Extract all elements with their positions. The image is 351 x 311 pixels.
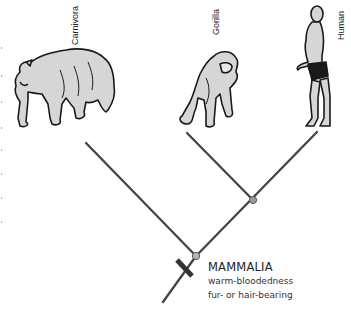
clade-name: MAMMALIA xyxy=(208,260,293,274)
clade-annotation: MAMMALIA warm-bloodedness fur- or hair-b… xyxy=(208,260,293,302)
branch-human xyxy=(196,132,317,256)
taxon-label-human: Human xyxy=(336,11,346,40)
clade-trait: warm-bloodedness xyxy=(208,274,293,288)
edge-dots xyxy=(0,40,3,240)
gorilla-illustration xyxy=(180,52,238,127)
cladogram xyxy=(0,0,351,311)
branch-carnivora xyxy=(86,143,196,256)
human-illustration xyxy=(297,6,330,126)
node-mammalia xyxy=(192,252,199,259)
clade-trait: fur- or hair-bearing xyxy=(208,288,293,302)
branch-gorilla xyxy=(187,133,253,200)
bear-illustration xyxy=(15,49,114,127)
taxon-label-gorilla: Gorilla xyxy=(211,9,221,35)
taxon-label-carnivora: Carnivora xyxy=(70,6,80,45)
node-primates xyxy=(249,196,256,203)
